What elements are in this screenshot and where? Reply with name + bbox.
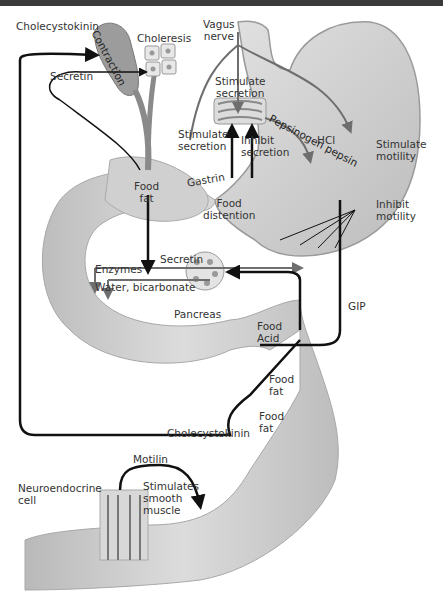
label-stimulates-smooth-muscle: Stimulates smooth muscle xyxy=(143,480,199,516)
label-inhibit-motility: Inhibit motility xyxy=(376,198,416,222)
label-inhibit-secretion: Inhibit secretion xyxy=(241,134,289,158)
gi-hormone-diagram: Cholecystokinin Contraction Choleresis V… xyxy=(0,0,443,601)
label-food-fat-duodenum: Food fat xyxy=(134,180,159,204)
label-motilin: Motilin xyxy=(133,453,168,465)
gastric-gland xyxy=(214,98,266,124)
label-secretin-pancreas: Secretin xyxy=(160,253,203,265)
label-water-bicarbonate: Water, bicarbonate xyxy=(95,281,196,293)
label-food-fat-low: Food fat xyxy=(259,410,284,434)
label-secretin-top: Secretin xyxy=(50,70,93,82)
label-pancreas: Pancreas xyxy=(174,308,221,320)
label-stimulate-motility: Stimulate motility xyxy=(376,138,427,162)
label-food-distention: Food distention xyxy=(203,197,255,221)
label-neuroendocrine-cell: Neuroendocrine cell xyxy=(18,482,102,506)
label-choleresis: Choleresis xyxy=(137,32,191,44)
label-gip: GIP xyxy=(348,300,366,312)
label-food-fat-mid: Food fat xyxy=(269,373,294,397)
label-stimulate-secretion-left: Stimulate secretion xyxy=(178,128,229,152)
label-food-acid: Food Acid xyxy=(257,320,282,344)
label-stimulate-secretion-top: Stimulate secretion xyxy=(215,75,266,99)
label-cholecystokinin-bottom: Cholecystokinin xyxy=(167,427,250,439)
label-enzymes: Enzymes xyxy=(95,263,142,275)
intestinal-villi xyxy=(100,490,148,560)
label-vagus-nerve: Vagus nerve xyxy=(203,18,235,42)
liver-cells xyxy=(145,44,176,76)
label-cholecystokinin-top: Cholecystokinin xyxy=(16,20,99,32)
